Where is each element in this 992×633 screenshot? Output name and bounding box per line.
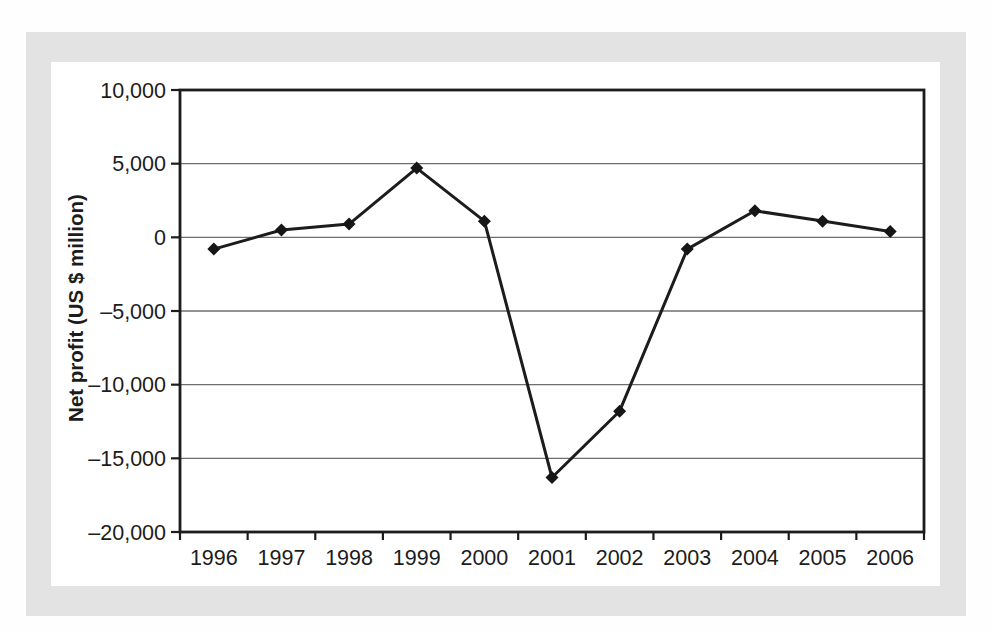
scanned-page: 10,0005,0000–5,000–10,000–15,000–20,0001… bbox=[0, 0, 992, 633]
x-tick-label: 1997 bbox=[258, 546, 306, 570]
data-point-marker-2004 bbox=[748, 204, 761, 217]
series-group bbox=[207, 162, 896, 484]
y-tick-label: –20,000 bbox=[88, 521, 166, 545]
x-tick-label: 2003 bbox=[663, 546, 711, 570]
data-point-marker-1997 bbox=[275, 223, 288, 236]
data-point-marker-1996 bbox=[207, 243, 220, 256]
y-tick-label: –5,000 bbox=[100, 300, 166, 324]
y-tick-label: 5,000 bbox=[112, 152, 166, 176]
y-tick-label: 10,000 bbox=[100, 79, 166, 103]
x-tick-label: 1999 bbox=[393, 546, 441, 570]
axis-ticks-group bbox=[171, 90, 924, 540]
y-tick-label: –15,000 bbox=[88, 447, 166, 471]
x-tick-label: 2001 bbox=[528, 546, 576, 570]
x-tick-label: 2004 bbox=[731, 546, 779, 570]
data-point-marker-2005 bbox=[816, 215, 829, 228]
y-tick-label: –10,000 bbox=[88, 373, 166, 397]
data-point-marker-2003 bbox=[681, 243, 694, 256]
x-tick-label: 1996 bbox=[190, 546, 238, 570]
y-tick-label: 0 bbox=[154, 226, 166, 250]
y-axis-title: Net profit (US $ million) bbox=[64, 194, 87, 422]
x-tick-label: 2002 bbox=[596, 546, 644, 570]
data-point-marker-2006 bbox=[884, 225, 897, 238]
series-line bbox=[214, 168, 890, 477]
x-tick-label: 2000 bbox=[460, 546, 508, 570]
x-tick-label: 2006 bbox=[866, 546, 914, 570]
axis-labels-group: 10,0005,0000–5,000–10,000–15,000–20,0001… bbox=[88, 79, 914, 571]
x-tick-label: 2005 bbox=[799, 546, 847, 570]
x-tick-label: 1998 bbox=[325, 546, 373, 570]
net-profit-line-chart: 10,0005,0000–5,000–10,000–15,000–20,0001… bbox=[0, 0, 992, 633]
gridlines-group bbox=[180, 164, 924, 459]
